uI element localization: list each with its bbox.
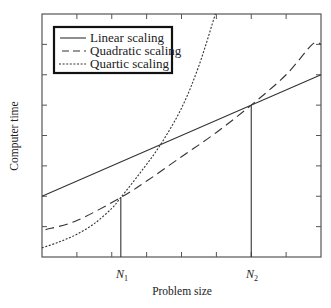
legend-item-quartic: Quartic scaling bbox=[90, 56, 170, 71]
x-axis-label: Problem size bbox=[152, 285, 212, 297]
chart: Linear scaling Quadratic scaling Quartic… bbox=[0, 0, 331, 308]
n2-label: N2 bbox=[245, 267, 258, 283]
series-linear-scaling bbox=[42, 75, 321, 197]
annotation-markers bbox=[121, 105, 251, 257]
legend: Linear scaling Quadratic scaling Quartic… bbox=[54, 27, 182, 73]
n1-label-sub: 1 bbox=[124, 274, 128, 283]
y-axis-label: Computer time bbox=[8, 101, 21, 170]
n1-label: N1 bbox=[115, 267, 128, 283]
n2-label-sub: 2 bbox=[254, 274, 258, 283]
